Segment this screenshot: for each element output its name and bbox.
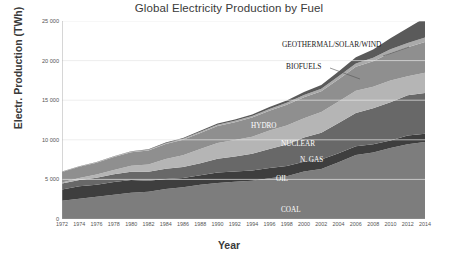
y-tick-label: 25 000 xyxy=(42,18,59,24)
x-tick-label: 2004 xyxy=(333,221,345,227)
x-tick-label: 2012 xyxy=(402,221,414,227)
x-tick-label: 2006 xyxy=(350,221,362,227)
x-tick-label: 1972 xyxy=(56,221,68,227)
x-tick-label: 1996 xyxy=(263,221,275,227)
x-tick-label: 2000 xyxy=(298,221,310,227)
x-tick-label: 1982 xyxy=(142,221,154,227)
x-tick-label: 1998 xyxy=(281,221,293,227)
y-tick-label: 15 000 xyxy=(42,97,59,103)
stacked-area-plot xyxy=(62,21,425,219)
x-axis-title: Year xyxy=(0,239,458,251)
x-tick-label: 1994 xyxy=(246,221,258,227)
x-tick-label: 2002 xyxy=(315,221,327,227)
x-tick-label: 1974 xyxy=(73,221,85,227)
x-tick-label: 1980 xyxy=(125,221,137,227)
y-tick-label: 10 000 xyxy=(42,137,59,143)
x-axis-ticks: 1972197419761978198019821984198619881990… xyxy=(62,221,425,233)
x-tick-label: 1978 xyxy=(108,221,120,227)
x-tick-label: 2014 xyxy=(419,221,431,227)
x-tick-label: 1986 xyxy=(177,221,189,227)
x-tick-label: 1984 xyxy=(160,221,172,227)
x-tick-label: 2008 xyxy=(367,221,379,227)
y-tick-label: 20 000 xyxy=(42,58,59,64)
plot-area xyxy=(62,21,425,219)
chart-container: Global Electricity Production by Fuel El… xyxy=(0,0,458,260)
x-tick-label: 1976 xyxy=(91,221,103,227)
x-tick-label: 2010 xyxy=(384,221,396,227)
x-tick-label: 1988 xyxy=(194,221,206,227)
y-axis-ticks: 05 00010 00015 00020 00025 000 xyxy=(22,21,59,219)
chart-title: Global Electricity Production by Fuel xyxy=(0,2,458,14)
y-tick-label: 5 000 xyxy=(45,176,59,182)
x-tick-label: 1992 xyxy=(229,221,241,227)
x-tick-label: 1990 xyxy=(212,221,224,227)
